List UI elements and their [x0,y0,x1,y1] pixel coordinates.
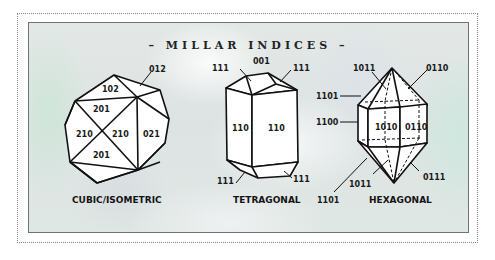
label-201-bottom: 201 [93,151,110,160]
label-201-top: 201 [93,105,110,114]
label-021: 021 [143,130,160,139]
label-1100-left: 1100 [316,118,339,127]
label-110-right: 110 [268,124,285,133]
caption-tetragonal: TETRAGONAL [233,195,301,205]
label-111-top-right: 111 [293,64,310,73]
label-1011-bottom: 1011 [349,180,372,189]
label-001: 001 [253,57,270,66]
label-111-bottom-right: 111 [293,175,310,184]
label-111-top-left: 111 [212,64,229,73]
label-0111-bottom: 0111 [423,173,446,182]
label-012: 012 [149,65,166,74]
label-0110-face: 0110 [405,123,428,132]
label-110-left: 110 [232,124,249,133]
label-210-left: 210 [76,130,93,139]
label-1010-face: 1010 [375,123,398,132]
label-0110-top: 0110 [426,64,449,73]
label-1011-top: 1011 [353,64,376,73]
label-1101-left: 1101 [316,92,339,101]
caption-hexagonal: HEXAGONAL [369,195,432,205]
caption-cubic: CUBIC/ISOMETRIC [72,195,162,205]
label-111-bottom-left: 111 [217,177,234,186]
label-102: 102 [102,85,119,94]
label-1101-bottom: 1101 [317,196,340,205]
crystal-diagrams: 012 102 201 210 210 021 201 CUBIC/ISOMET… [0,0,495,260]
label-210-mid: 210 [112,130,129,139]
